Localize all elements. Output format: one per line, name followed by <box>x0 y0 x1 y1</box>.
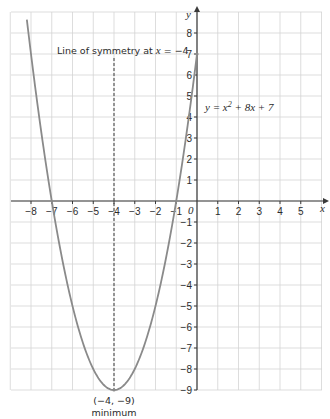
symmetry-label: Line of symmetry at x = −4 <box>57 44 189 56</box>
y-tick-label: 2 <box>186 154 192 165</box>
x-tick-label: −6 <box>67 206 79 217</box>
x-tick-label: −8 <box>25 206 37 217</box>
tick-labels: −8−7−6−5−4−3−2−112345−9−8−7−6−5−4−3−2−11… <box>25 28 304 396</box>
x-tick-label: −3 <box>129 206 141 217</box>
y-tick-label: −7 <box>181 343 193 354</box>
equation-label: y = x2 + 8x + 7 <box>204 100 274 113</box>
minimum-point <box>112 388 115 391</box>
x-tick-label: −1 <box>171 206 183 217</box>
y-tick-label: −3 <box>181 259 193 270</box>
x-tick-label: 5 <box>298 206 304 217</box>
y-tick-label: 6 <box>186 70 192 81</box>
minimum-coords-label: (−4, −9) <box>93 395 134 406</box>
y-tick-label: 8 <box>186 28 192 39</box>
y-tick-label: −4 <box>181 280 193 291</box>
y-axis-arrow-icon <box>194 6 200 12</box>
x-axis-label: x <box>319 202 325 214</box>
y-tick-label: −9 <box>181 385 193 396</box>
y-tick-label: −2 <box>181 238 193 249</box>
y-tick-label: −5 <box>181 301 193 312</box>
origin-label: 0 <box>188 204 194 216</box>
x-tick-label: −5 <box>88 206 100 217</box>
x-tick-label: 3 <box>256 206 262 217</box>
y-axis-label: y <box>185 8 191 20</box>
axes <box>11 6 329 390</box>
x-tick-label: −2 <box>150 206 162 217</box>
y-tick-label: −8 <box>181 364 193 375</box>
y-tick-label: −1 <box>181 217 193 228</box>
y-tick-label: 3 <box>186 133 192 144</box>
minimum-word-label: minimum <box>91 407 136 418</box>
y-tick-label: −6 <box>181 322 193 333</box>
y-intercept-point <box>195 52 198 55</box>
x-tick-label: 1 <box>215 206 221 217</box>
x-tick-label: 4 <box>277 206 283 217</box>
parabola-chart: −8−7−6−5−4−3−2−112345−9−8−7−6−5−4−3−2−11… <box>0 0 330 419</box>
y-tick-label: 1 <box>186 175 192 186</box>
x-tick-label: 2 <box>236 206 242 217</box>
